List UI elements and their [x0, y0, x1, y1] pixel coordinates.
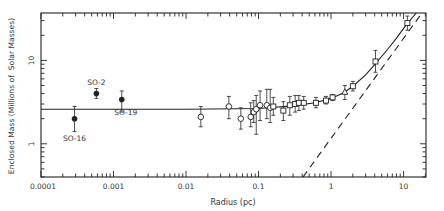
y-tick-label: 10: [27, 55, 36, 65]
x-tick-label: 0.0001: [30, 182, 56, 191]
filled-circle-marker: [72, 116, 78, 122]
data-point: [281, 102, 286, 121]
open-square-marker: [313, 100, 318, 105]
y-tick-label: 1: [27, 141, 36, 146]
data-point: [301, 96, 306, 109]
data-point: [296, 95, 301, 110]
data-point: [287, 96, 292, 115]
open-square-marker: [296, 100, 301, 105]
open-circle-marker: [226, 104, 232, 110]
open-square-marker: [287, 103, 292, 108]
data-point: [323, 96, 328, 104]
data-point: [350, 81, 355, 91]
open-square-marker: [373, 59, 378, 64]
annotation-label: SO-16: [63, 134, 86, 143]
x-tick-label: 10: [399, 182, 409, 191]
data-point: [264, 89, 270, 118]
data-point: [238, 108, 244, 129]
filled-circle-marker: [94, 91, 100, 97]
x-tick-label: 0.001: [103, 182, 125, 191]
x-tick-label: 1: [329, 182, 334, 191]
data-point: [226, 96, 232, 118]
data-point: [271, 97, 276, 115]
x-tick-label: 0.01: [178, 182, 195, 191]
open-circle-marker: [257, 102, 263, 108]
open-square-marker: [301, 100, 306, 105]
data-point: [373, 50, 378, 72]
tick-labels: 0.00010.0010.010.1110110: [27, 55, 409, 191]
open-circle-marker: [198, 114, 204, 120]
x-tick-label: 0.1: [253, 182, 265, 191]
data-point: [72, 107, 78, 132]
data-point: [313, 97, 318, 107]
open-square-marker: [271, 104, 276, 109]
open-square-marker: [350, 84, 355, 89]
open-square-marker: [405, 21, 410, 26]
x-axis-label: Radius (pc): [210, 198, 255, 207]
dashed-cluster-line: [303, 14, 421, 177]
chart-canvas: 0.00010.0010.010.1110110 SO-2SO-19SO-16 …: [0, 0, 444, 211]
y-axis-label: Enclosed Mass (Millions of Solar Masses): [7, 18, 16, 174]
triangle-marker: [342, 89, 348, 95]
open-square-marker: [330, 95, 335, 100]
data-point: [342, 86, 348, 100]
data-point: [405, 16, 410, 30]
open-circle-marker: [238, 116, 244, 122]
open-square-marker: [323, 98, 328, 103]
enclosed-mass-chart: 0.00010.0010.010.1110110 SO-2SO-19SO-16 …: [0, 0, 444, 211]
data-point: [330, 95, 335, 101]
open-square-marker: [281, 108, 286, 113]
data-point: [94, 89, 100, 99]
annotation-label: SO-2: [87, 78, 106, 87]
filled-circle-marker: [119, 97, 125, 103]
annotation-label: SO-19: [114, 108, 137, 117]
